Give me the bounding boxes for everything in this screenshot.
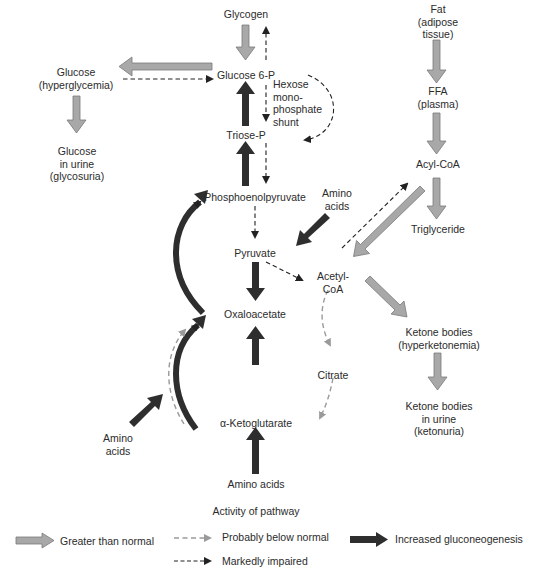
legend-markedly-impaired: Markedly impaired bbox=[222, 555, 308, 567]
node-ffa-plasma: FFA (plasma) bbox=[418, 85, 459, 110]
node-amino-acids-bottom: Amino acids bbox=[227, 478, 284, 491]
curve-oaa-to-pep bbox=[176, 202, 203, 313]
legend-greater-than-normal: Greater than normal bbox=[60, 535, 154, 547]
dash-citrate-to-akg bbox=[320, 378, 333, 418]
arrow-acetylcoa-to-ketone bbox=[365, 276, 407, 317]
node-triose-p: Triose-P bbox=[226, 129, 265, 142]
curve-lower-to-oaa bbox=[176, 325, 198, 429]
arrow-aminoacids-to-pyruvate bbox=[296, 213, 330, 246]
dash-acetylcoa-to-citrate bbox=[322, 290, 330, 345]
arrow-ketone-to-urine bbox=[428, 353, 447, 390]
arrow-fat-to-ffa bbox=[427, 40, 446, 83]
arrow-acylcoa-to-acetylcoa bbox=[354, 186, 426, 257]
arrow-acylcoa-to-triglyceride bbox=[427, 178, 446, 219]
node-ketone-bodies-hyperketonemia: Ketone bodies (hyperketonemia) bbox=[398, 326, 480, 351]
legend-probably-below-normal: Probably below normal bbox=[222, 531, 329, 543]
node-glucose-in-urine: Glucose in urine (glycosuria) bbox=[50, 145, 104, 183]
legend-title: Activity of pathway bbox=[213, 505, 300, 518]
dash-pyruvate-to-acetylcoa bbox=[266, 262, 302, 280]
arrow-aminoacids-to-curve bbox=[129, 394, 163, 427]
arrow-akg-to-oxaloacetate bbox=[246, 326, 265, 365]
node-triglyceride: Triglyceride bbox=[411, 223, 465, 236]
arrow-pyruvate-to-oxaloacetate bbox=[246, 262, 265, 301]
node-fat-adipose: Fat (adipose tissue) bbox=[418, 3, 458, 41]
node-amino-acids-left: Amino acids bbox=[103, 432, 133, 457]
node-glucose-6-p: Glucose 6-P bbox=[217, 69, 275, 82]
node-amino-acids-top: Amino acids bbox=[322, 187, 352, 212]
node-acetyl-coa: Acetyl- CoA bbox=[317, 270, 349, 295]
arrow-aminoacids-to-akg bbox=[246, 427, 265, 474]
node-ketone-bodies-urine: Ketone bodies in urine (ketonuria) bbox=[405, 400, 472, 438]
node-glucose-hyperglycemia: Glucose (hyperglycemia) bbox=[39, 66, 114, 91]
node-hexose-monophosphate-shunt: Hexose mono- phosphate shunt bbox=[273, 78, 322, 128]
arrow-glycogen-to-glucose6p bbox=[236, 25, 255, 60]
node-citrate: Citrate bbox=[318, 369, 349, 382]
node-pyruvate: Pyruvate bbox=[234, 247, 275, 260]
arrow-triosep-to-glucose6p bbox=[236, 81, 255, 126]
node-phosphoenolpyruvate: Phosphoenolpyruvate bbox=[204, 191, 306, 204]
legend-gray-arrow-icon bbox=[16, 533, 54, 548]
arrow-ffa-to-acylcoa bbox=[427, 113, 446, 154]
arrow-glucose6p-to-glucose bbox=[119, 57, 212, 76]
arrow-glucose-to-urine bbox=[67, 96, 86, 133]
node-alpha-ketoglutarate: α-Ketoglutarate bbox=[220, 417, 292, 430]
dark-curved-arrows bbox=[176, 202, 203, 429]
node-glycogen: Glycogen bbox=[224, 8, 268, 21]
legend-increased-gluconeogenesis: Increased gluconeogenesis bbox=[395, 533, 523, 545]
legend-dark-arrow-icon bbox=[350, 532, 388, 547]
node-oxaloacetate: Oxaloacetate bbox=[224, 308, 286, 321]
node-acyl-coa: Acyl-CoA bbox=[416, 158, 460, 171]
arrow-pep-to-triosep bbox=[236, 141, 255, 186]
